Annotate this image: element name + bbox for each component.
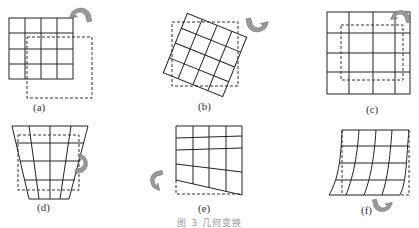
panel-d-rotate-arrow-icon [75, 154, 87, 174]
panel-a-grid [9, 18, 73, 79]
panel-f-label: (f) [361, 204, 372, 216]
panel-e-rotate-arrow-icon [151, 170, 163, 190]
panel-c-grid [327, 12, 410, 94]
panel-d-label: (d) [37, 201, 50, 213]
figure-caption: 图 3 几何变换 [0, 216, 419, 228]
panel-c-label: (c) [366, 103, 378, 115]
panel-a-label: (a) [33, 101, 45, 113]
panel-f-grid [329, 130, 409, 195]
panel-b-grid [163, 13, 246, 96]
panel-f-rotate-arrow-icon [372, 199, 392, 211]
panel-e-label: (e) [198, 202, 210, 214]
panel-e-grid [176, 126, 242, 195]
panel-b-rotate-arrow-icon [246, 18, 269, 32]
panel-d-grid [12, 126, 88, 199]
panel-a-dashed-frame [27, 37, 92, 98]
figure-canvas [0, 0, 419, 228]
panel-b-label: (b) [198, 100, 211, 112]
